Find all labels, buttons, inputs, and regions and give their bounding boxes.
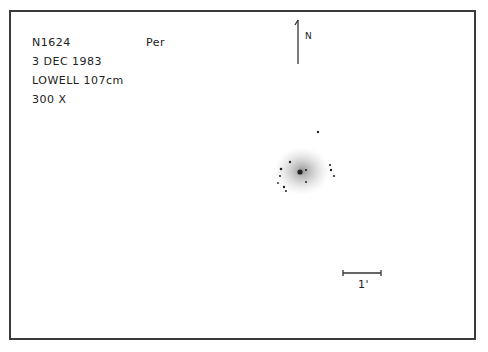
sketch-drawing [0,0,488,352]
scale-label: 1' [358,278,369,291]
north-label: N [305,31,312,41]
north-arrow-icon [295,20,298,64]
scale-bar [343,270,381,276]
